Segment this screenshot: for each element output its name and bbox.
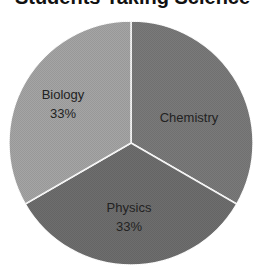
pie-chart: Biology 33% Chemistry Physics 33%	[0, 0, 265, 277]
label-physics: Physics	[107, 200, 152, 215]
label-biology-pct: 33%	[50, 106, 76, 121]
label-physics-pct: 33%	[116, 219, 142, 234]
label-biology: Biology	[42, 87, 85, 102]
label-chemistry: Chemistry	[160, 110, 219, 125]
